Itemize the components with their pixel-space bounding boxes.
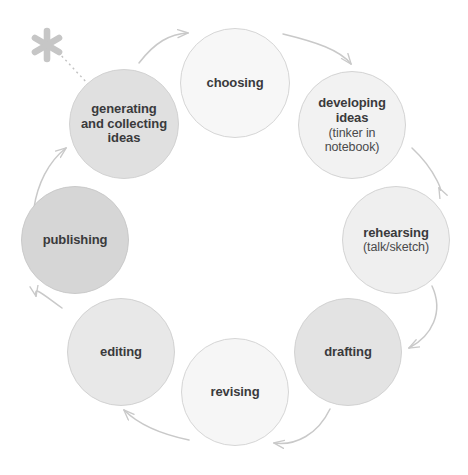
cycle-node-developing-ideas[interactable]: developingideas(tinker innotebook): [298, 71, 406, 179]
arrow-editing-to-publishing: [36, 291, 62, 308]
cycle-node-label-line: drafting: [324, 345, 372, 360]
cycle-node-text: revising: [204, 385, 265, 400]
arrow-generating-to-choosing: [139, 33, 188, 63]
cycle-node-revising[interactable]: revising: [181, 338, 289, 446]
cycle-node-sublabel-line: (talk/sketch): [363, 240, 429, 254]
cycle-node-sublabel-line: (tinker in: [318, 126, 386, 140]
cycle-node-text: developingideas(tinker innotebook): [312, 96, 392, 153]
cycle-node-label-line: editing: [100, 345, 142, 360]
cycle-node-text: generatingand collectingideas: [75, 102, 173, 146]
cycle-node-label-line: ideas: [318, 111, 386, 126]
cycle-node-label-line: rehearsing: [363, 226, 429, 241]
cycle-node-text: drafting: [318, 345, 378, 360]
cycle-node-text: publishing: [37, 233, 114, 248]
cycle-node-label-line: and collecting: [81, 117, 167, 132]
cycle-node-label-line: developing: [318, 96, 386, 111]
cycle-node-text: editing: [94, 345, 148, 360]
cycle-node-generating[interactable]: generatingand collectingideas: [69, 69, 179, 179]
asterisk-connector-line: [58, 52, 88, 84]
cycle-node-label-line: ideas: [81, 131, 167, 146]
cycle-node-text: choosing: [201, 76, 270, 91]
cycle-node-editing[interactable]: editing: [67, 298, 175, 406]
cycle-node-drafting[interactable]: drafting: [294, 298, 402, 406]
cycle-node-choosing[interactable]: choosing: [180, 28, 290, 138]
arrow-revising-to-editing: [124, 410, 189, 440]
arrow-choosing-to-developing: [283, 34, 351, 64]
arrow-developing-to-rehearsing: [412, 148, 441, 190]
cycle-node-sublabel-line: notebook): [318, 140, 386, 154]
cycle-node-label-line: choosing: [207, 76, 264, 91]
cycle-node-label-line: generating: [81, 102, 167, 117]
cycle-node-text: rehearsing(talk/sketch): [357, 226, 435, 255]
cycle-node-publishing[interactable]: publishing: [21, 186, 129, 294]
arrow-rehearsing-to-drafting: [409, 286, 437, 348]
cycle-node-rehearsing[interactable]: rehearsing(talk/sketch): [342, 186, 450, 294]
asterisk-icon: [35, 31, 59, 59]
writing-process-cycle-diagram: generatingand collectingideaschoosingdev…: [0, 0, 468, 475]
cycle-node-label-line: revising: [210, 385, 259, 400]
cycle-node-label-line: publishing: [43, 233, 108, 248]
